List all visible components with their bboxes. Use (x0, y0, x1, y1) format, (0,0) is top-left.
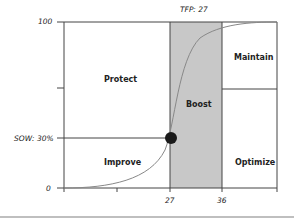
quadrant-optimize: Optimize (235, 158, 276, 167)
y-max-label: 100 (38, 17, 53, 26)
y-min-label: 0 (46, 184, 51, 193)
sow-label: SOW: 30% (14, 134, 54, 143)
quadrant-protect: Protect (104, 75, 137, 84)
quadrant-boost: Boost (186, 100, 212, 109)
quadrant-maintain: Maintain (234, 53, 274, 62)
quadrant-diagram: TFP: 27 100 0 SOW: 30% 27 36 Protect Imp… (0, 0, 294, 222)
chart-title: TFP: 27 (180, 5, 208, 14)
x-tick-36-label: 36 (217, 196, 227, 205)
sow-marker-dot (165, 132, 177, 144)
quadrant-improve: Improve (104, 158, 142, 167)
x-tick-27-label: 27 (165, 196, 175, 205)
